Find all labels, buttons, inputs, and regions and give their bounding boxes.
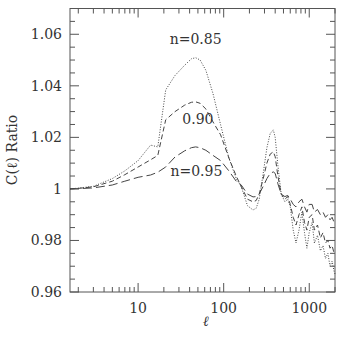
x-tick-label: 100 xyxy=(210,300,237,316)
x-axis-label: ℓ xyxy=(203,313,209,329)
y-tick-label: 1.06 xyxy=(31,26,62,42)
y-axis-label: C(ℓ) Ratio xyxy=(4,115,20,186)
y-tick-label: 0.98 xyxy=(31,232,62,248)
curve-label: n=0.95 xyxy=(170,163,222,179)
curve-label: 0.90 xyxy=(182,111,213,127)
y-tick-label: 1 xyxy=(53,181,62,197)
curve-label: n=0.85 xyxy=(170,31,222,47)
chart: 1010010000.960.9811.021.041.06 n=0.850.9… xyxy=(0,0,341,339)
series-line-long-dashed xyxy=(70,147,335,223)
x-tick-label: 1000 xyxy=(291,300,327,316)
y-tick-label: 1.04 xyxy=(31,78,62,94)
axis-ticks xyxy=(70,9,335,293)
plot-frame xyxy=(70,9,335,293)
y-tick-label: 1.02 xyxy=(31,129,62,145)
x-tick-label: 10 xyxy=(129,300,147,316)
y-tick-label: 0.96 xyxy=(31,284,62,300)
